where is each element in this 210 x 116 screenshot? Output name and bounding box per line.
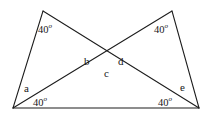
angle-value-top-right: 40 <box>154 24 165 35</box>
angle-label-bottom-right: 40o <box>158 96 172 108</box>
vertex-label-e: e <box>180 82 185 93</box>
angle-label-bottom-left: 40o <box>33 96 47 108</box>
vertex-label-c: c <box>104 68 109 79</box>
vertex-label-d: d <box>118 56 124 67</box>
angle-label-top-left: 40o <box>38 23 52 35</box>
angle-value-top-left: 40 <box>38 24 49 35</box>
right-apex-to-bottom-left-line <box>13 11 172 108</box>
degree-symbol-top-right: o <box>165 22 169 30</box>
degree-symbol-bottom-right: o <box>169 95 173 103</box>
vertex-label-b: b <box>84 56 90 67</box>
geometry-canvas <box>0 0 210 116</box>
vertex-label-a: a <box>24 83 29 94</box>
angle-label-top-right: 40o <box>154 23 168 35</box>
angle-value-bottom-right: 40 <box>158 97 169 108</box>
geometry-figure: 40o 40o 40o 40o a b c d e <box>0 0 210 116</box>
degree-symbol-bottom-left: o <box>44 95 48 103</box>
degree-symbol-top-left: o <box>49 22 53 30</box>
angle-value-bottom-left: 40 <box>33 97 44 108</box>
